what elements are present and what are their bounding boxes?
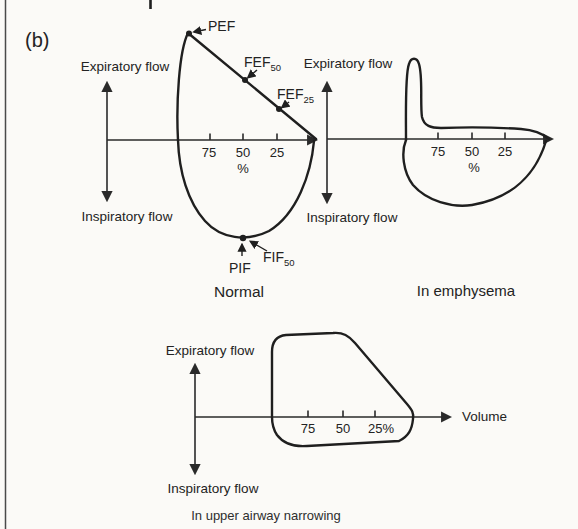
fef50-label-sub: 50 xyxy=(270,62,281,73)
fef25-arrow xyxy=(282,102,289,108)
upper-airway-inspiratory-flow-label: Inspiratory flow xyxy=(168,481,259,496)
upper-airway-tick-label-75: 75 xyxy=(301,421,315,436)
fef50-label-text: FEF xyxy=(244,54,270,70)
pef-label-text: PEF xyxy=(208,18,235,34)
upper-airway-tick-label-25: 25% xyxy=(368,421,394,436)
emphysema-chart: Expiratory flow Inspiratory flow 75 50 2… xyxy=(304,56,552,299)
normal-expiratory-flow-label: Expiratory flow xyxy=(81,59,170,74)
pif-fif50-point xyxy=(240,235,246,241)
pif-label: PIF xyxy=(229,260,251,276)
emphysema-tick-label-50: 50 xyxy=(465,144,479,159)
fef50-arrow xyxy=(248,70,257,78)
pef-arrow xyxy=(194,30,206,33)
fef50-point xyxy=(242,77,248,83)
emphysema-inspiratory-flow-label: Inspiratory flow xyxy=(307,210,398,225)
fef25-label-text: FEF xyxy=(277,86,303,102)
fef50-label: FEF50 xyxy=(244,54,281,73)
emphysema-expiratory-curve xyxy=(406,59,549,140)
normal-tick-label-75: 75 xyxy=(202,145,216,160)
emphysema-tick-label-25: 25 xyxy=(498,144,512,159)
fif50-label-text: FIF xyxy=(263,249,284,265)
upper-airway-chart: Expiratory flow Inspiratory flow Volume … xyxy=(166,333,507,523)
normal-chart: Expiratory flow Inspiratory flow 75 50 2… xyxy=(81,18,316,300)
fef25-point xyxy=(276,106,282,112)
fif50-label: FIF50 xyxy=(263,249,295,268)
normal-tick-label-50: 50 xyxy=(236,145,250,160)
pef-point xyxy=(186,31,192,37)
upper-airway-tick-label-50: 50 xyxy=(336,421,350,436)
fef25-label: FEF25 xyxy=(277,86,314,105)
pef-label: PEF xyxy=(208,18,235,34)
emphysema-tick-label-75: 75 xyxy=(431,144,445,159)
normal-inspiratory-flow-label: Inspiratory flow xyxy=(82,209,173,224)
emphysema-percent-label: % xyxy=(468,160,480,175)
volume-axis-label: Volume xyxy=(462,409,507,424)
pif-label-text: PIF xyxy=(229,260,251,276)
fif50-label-sub: 50 xyxy=(284,257,295,268)
figure-label: (b) xyxy=(25,29,49,51)
emphysema-caption: In emphysema xyxy=(417,282,516,299)
normal-caption: Normal xyxy=(214,283,264,300)
fef25-label-sub: 25 xyxy=(303,94,314,105)
flow-volume-diagram: (b) Expiratory flow Inspiratory flow 75 … xyxy=(0,0,578,529)
upper-airway-expiratory-flow-label: Expiratory flow xyxy=(166,343,255,358)
upper-airway-caption: In upper airway narrowing xyxy=(191,508,341,523)
scanned-figure-page: (b) Expiratory flow Inspiratory flow 75 … xyxy=(0,0,578,529)
normal-tick-label-25: 25 xyxy=(270,145,284,160)
emphysema-expiratory-flow-label: Expiratory flow xyxy=(304,56,393,71)
normal-percent-label: % xyxy=(237,161,249,176)
